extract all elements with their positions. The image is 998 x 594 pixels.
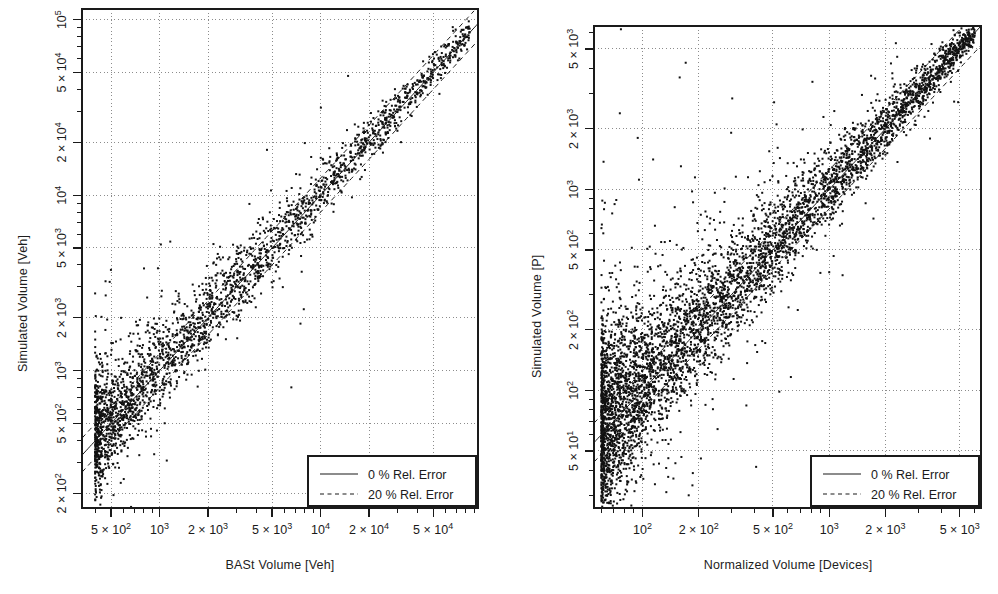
svg-text:2 × 102: 2 × 102 [679,521,719,537]
svg-text:5 × 101: 5 × 101 [565,431,581,471]
svg-text:2 × 103: 2 × 103 [865,521,905,537]
legend-label: 20 % Rel. Error [368,488,453,502]
svg-text:5 × 102: 5 × 102 [565,230,581,270]
svg-text:5 × 102: 5 × 102 [53,403,69,443]
svg-text:5 × 103: 5 × 103 [565,29,581,69]
svg-text:5 × 104: 5 × 104 [53,52,69,92]
svg-text:104: 104 [53,186,69,205]
svg-text:102: 102 [565,381,581,400]
legend-label: 20 % Rel. Error [871,488,956,502]
svg-text:105: 105 [53,10,69,29]
svg-text:103: 103 [150,521,169,537]
svg-text:5 × 103: 5 × 103 [940,521,980,537]
svg-text:5 × 103: 5 × 103 [252,521,292,537]
right-plot-canvas: 1022 × 1025 × 1021032 × 1035 × 1035 × 10… [500,0,998,594]
right-x-axis-title: Normalized Volume [Devices] [594,558,982,572]
svg-text:103: 103 [53,361,69,380]
svg-text:2 × 102: 2 × 102 [53,473,69,513]
legend-label: 0 % Rel. Error [368,468,447,482]
legend-label: 0 % Rel. Error [871,468,950,482]
svg-text:102: 102 [633,521,652,537]
panel-right: 1022 × 1025 × 1021032 × 1035 × 1035 × 10… [500,0,998,594]
svg-text:5 × 102: 5 × 102 [91,521,131,537]
svg-text:2 × 103: 2 × 103 [565,109,581,149]
svg-text:5 × 104: 5 × 104 [413,521,453,537]
legend: 0 % Rel. Error20 % Rel. Error [811,456,979,506]
svg-text:103: 103 [820,521,839,537]
svg-text:2 × 103: 2 × 103 [188,521,228,537]
right-y-axis-title: Simulated Volume [P] [530,254,544,378]
left-plot-canvas: 5 × 1021032 × 1035 × 1031042 × 1045 × 10… [0,0,500,594]
svg-text:103: 103 [565,180,581,199]
left-y-axis-title: Simulated Volume [Veh] [16,235,30,372]
figure-root: 5 × 1021032 × 1035 × 1031042 × 1045 × 10… [0,0,998,594]
svg-text:2 × 103: 2 × 103 [53,298,69,338]
scatter-points [600,26,975,507]
panel-left: 5 × 1021032 × 1035 × 1031042 × 1045 × 10… [0,0,500,594]
svg-text:104: 104 [311,521,330,537]
reference-lines [82,11,478,472]
left-x-axis-title: BASt Volume [Veh] [82,558,478,572]
svg-text:2 × 104: 2 × 104 [349,521,389,537]
svg-text:2 × 104: 2 × 104 [53,122,69,162]
svg-text:5 × 102: 5 × 102 [753,521,793,537]
svg-text:5 × 103: 5 × 103 [53,228,69,268]
legend: 0 % Rel. Error20 % Rel. Error [308,456,476,506]
svg-text:2 × 102: 2 × 102 [565,310,581,350]
axis-ticks [73,20,474,517]
